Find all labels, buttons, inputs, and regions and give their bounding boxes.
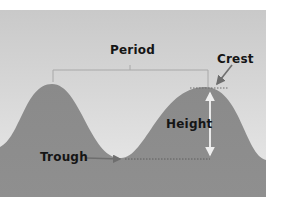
wave-shape [0, 84, 266, 197]
trough-label: Trough [40, 150, 88, 164]
height-label: Height [166, 117, 212, 131]
crest-label: Crest [217, 52, 254, 66]
wave-illustration [0, 10, 266, 197]
trough-arrow [86, 158, 120, 159]
wave-diagram: Period Crest Height Trough [0, 10, 266, 197]
period-bracket [53, 65, 208, 87]
crest-arrow [217, 65, 232, 84]
period-label: Period [110, 43, 155, 57]
